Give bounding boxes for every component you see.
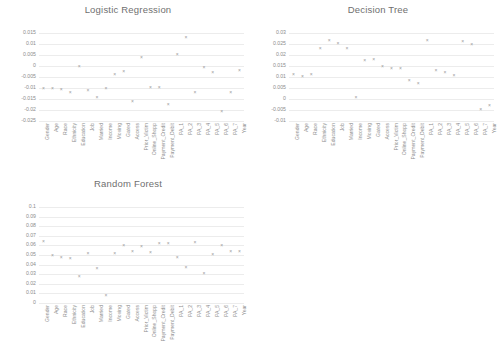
x-tick-label-text: Year [242,123,247,133]
data-point: × [238,248,241,253]
x-tick-label: PA_6 [224,293,229,305]
x-tick-label-text: Job [90,123,95,131]
x-tick-label: Prior_Victim [144,96,149,123]
gridline [289,88,494,89]
x-tick-label-text: Gated [126,123,131,137]
x-tick-label: Moving [117,289,122,305]
x-tick-label-text: PA_6 [224,123,229,135]
data-point: × [122,68,125,73]
x-tick-label-text: Job [340,123,345,131]
x-tick-label-text: PA_3 [447,123,452,135]
x-tick-label-text: Married [99,123,104,140]
y-tick-label: 0.08 [26,224,36,229]
x-tick-label: Ethnicity [72,104,77,123]
data-point: × [452,73,455,78]
x-tick-label: Age [54,296,59,305]
y-tick-label: 0.06 [26,243,36,248]
x-tick-label-text: PA_5 [215,305,220,317]
y-tick-label: 0.04 [26,262,36,267]
y-tick-label: 0 [33,63,36,68]
x-tick-label: Access [385,107,390,123]
data-point: × [488,102,491,107]
x-tick-label-text: PA_1 [179,123,184,135]
x-tick-label-text: Job [90,305,95,313]
x-tick-label: PA_2 [188,293,193,305]
y-tick-label: 0.01 [26,291,36,296]
y-tick-label: -0.025 [21,118,36,123]
x-tick-label: PA_2 [188,111,193,123]
y-tick-label: 0.015 [273,63,286,68]
x-tick-label: Income [108,106,113,123]
x-tick-label-text: Payment_Credit [411,123,416,160]
data-point: × [158,241,161,246]
x-tick-label: Online_Shopp [402,91,407,123]
data-point: × [78,63,81,68]
data-point: × [140,54,143,59]
data-point: × [426,38,429,43]
data-point: × [363,58,366,63]
data-point: × [42,239,45,244]
data-point: × [310,72,313,77]
gridline [289,33,494,34]
x-tick-label: Payment_Debit [170,270,175,305]
data-point: × [51,253,54,258]
x-tick-label-text: Online_Shopp [402,123,407,155]
data-point: × [104,86,107,91]
x-tick-label: PA_7 [233,293,238,305]
x-tick-label-text: PA_5 [465,123,470,135]
data-point: × [149,249,152,254]
chart-panel-random-forest: Random Forest 0.10.090.080.070.060.050.0… [8,178,248,350]
data-point: × [408,78,411,83]
data-point: × [354,95,357,100]
x-tick-label: PA_3 [197,293,202,305]
x-tick-label-text: PA_4 [206,305,211,317]
gridline [39,66,244,67]
x-tick-label: Race [63,111,68,123]
x-tick-label: Gender [45,288,50,305]
gridline [39,303,244,304]
x-tick-label-text: Year [492,123,497,133]
x-tick-label-text: Gender [45,305,50,322]
x-tick-label-text: Payment_Debit [170,305,175,340]
gridline [39,121,244,122]
data-point: × [113,251,116,256]
x-tick-label-text: Year [242,305,247,315]
x-tick-label-text: Payment_Credit [161,305,166,342]
gridline [289,121,494,122]
x-tick-label: Gender [295,106,300,123]
x-tick-label-text: Moving [117,123,122,139]
x-tick-label: PA_5 [465,111,470,123]
y-tick-label: 0 [33,300,36,305]
gridline [39,293,244,294]
x-tick-label: Prior_Victim [144,278,149,305]
x-tick-label-text: Prior_Victim [144,305,149,332]
data-point: × [292,72,295,77]
x-tick-label: Job [90,115,95,123]
x-tick-label-text: PA_2 [188,305,193,317]
gridline [289,99,494,100]
y-tick-label: 0.005 [273,85,286,90]
y-axis-logistic-regression: 0.0150.010.0050-0.005-0.01-0.015-0.02-0.… [8,33,38,121]
x-tick-label: PA_4 [206,111,211,123]
y-tick-label: 0.09 [26,214,36,219]
plot-area-decision-tree: 0.030.0250.020.0150.010.0050-0.005-0.01 … [258,15,498,175]
data-point: × [202,270,205,275]
x-tick-label-text: Payment_Credit [161,123,166,160]
x-tick-label-text: PA_3 [197,305,202,317]
x-tick-label-text: Gated [376,123,381,137]
x-tick-label: Payment_Credit [161,268,166,305]
data-point: × [399,66,402,71]
x-tick-label: PA_4 [456,111,461,123]
data-point: × [131,98,134,103]
gridline [39,274,244,275]
y-tick-label: -0.01 [274,118,286,123]
data-point: × [87,87,90,92]
x-tick-label: Access [135,289,140,305]
y-tick-label: 0.1 [29,204,36,209]
x-tick-label-text: PA_7 [233,123,238,135]
x-tick-label-text: PA_7 [483,123,488,135]
y-tick-label: 0.03 [276,30,286,35]
chart-title-random-forest: Random Forest [8,178,248,189]
x-tick-label-text: Ethnicity [72,305,77,324]
x-tick-label-text: Online_Shopp [152,123,157,155]
